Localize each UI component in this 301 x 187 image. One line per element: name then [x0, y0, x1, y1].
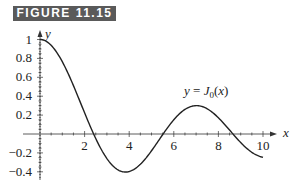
y-tick-label: 0.8: [16, 50, 32, 65]
y-axis-arrow-icon: [38, 30, 43, 37]
bessel-curve: [40, 40, 263, 173]
curve-annotation: y = J0(x): [182, 83, 228, 100]
x-tick-label: 8: [215, 138, 222, 153]
y-tick-label: 0.2: [16, 107, 32, 122]
x-tick-label: 4: [126, 138, 133, 153]
y-tick-label: 0.6: [16, 69, 33, 84]
y-tick-label: 0.4: [16, 88, 33, 103]
y-tick-labels: 10.80.60.40.2−0.2−0.4: [8, 32, 32, 179]
x-tick-label: 6: [171, 138, 178, 153]
bessel-chart: 246810 10.80.60.40.2−0.2−0.4 x y y = J0(…: [0, 0, 301, 187]
x-tick-labels: 246810: [81, 138, 269, 153]
x-axis-arrow-icon: [270, 132, 277, 137]
x-tick-label: 10: [257, 138, 270, 153]
y-axis-label: y: [43, 26, 51, 41]
x-axis-label: x: [282, 125, 289, 140]
x-tick-label: 2: [81, 138, 88, 153]
y-tick-label: −0.2: [8, 145, 32, 160]
y-tick-label: 1: [26, 32, 33, 47]
y-tick-label: −0.4: [8, 164, 32, 179]
